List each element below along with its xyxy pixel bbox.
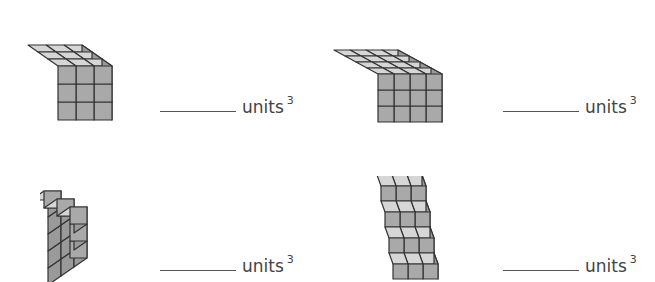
exponent-2: 3 <box>630 94 637 107</box>
cube-figure-2 <box>330 30 460 134</box>
cube-figure-4 <box>345 176 455 282</box>
answer-blank-3[interactable] <box>160 269 236 271</box>
exponent-3: 3 <box>287 253 294 266</box>
answer-blank-4[interactable] <box>503 269 579 271</box>
unit-label-4: units <box>585 258 627 275</box>
exponent-1: 3 <box>287 94 294 107</box>
answer-1: units3 <box>160 99 294 116</box>
unit-label-2: units <box>585 99 627 116</box>
cube-figure-1 <box>18 28 128 132</box>
answer-3: units3 <box>160 258 294 275</box>
cube-figure-3 <box>40 170 115 282</box>
exponent-4: 3 <box>630 253 637 266</box>
unit-label-1: units <box>242 99 284 116</box>
answer-2: units3 <box>503 99 637 116</box>
answer-4: units3 <box>503 258 637 275</box>
answer-blank-2[interactable] <box>503 110 579 112</box>
answer-blank-1[interactable] <box>160 110 236 112</box>
unit-label-3: units <box>242 258 284 275</box>
